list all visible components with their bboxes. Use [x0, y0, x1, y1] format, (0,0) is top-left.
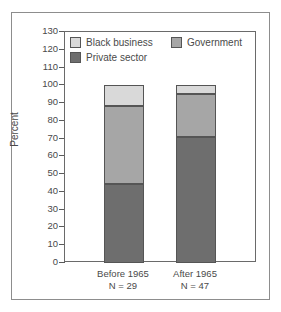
y-tick-label-wrap: 120	[26, 44, 58, 54]
y-tick-label: 50	[32, 168, 58, 178]
y-tick-label: 120	[32, 44, 58, 54]
x-axis-label-period: After 1965	[147, 268, 243, 280]
y-tick-label: 100	[32, 79, 58, 89]
bar-segment-black-business[interactable]	[176, 85, 216, 94]
bar-segment-black-business[interactable]	[104, 85, 144, 105]
y-tick-label: 80	[32, 115, 58, 125]
y-tick-label: 20	[32, 221, 58, 231]
x-axis-label-group: After 1965N = 47	[147, 268, 243, 292]
x-axis-label-sample-size: N = 47	[147, 280, 243, 292]
plot-area	[64, 31, 256, 262]
legend-swatch-icon	[70, 37, 81, 48]
y-tick-label-wrap: 130	[26, 26, 58, 36]
bar-after-1965[interactable]	[176, 32, 216, 263]
y-tick-label: 0	[32, 257, 58, 267]
y-tick-label: 110	[32, 62, 58, 72]
bar-segment-government[interactable]	[104, 106, 144, 184]
legend-swatch-icon	[70, 52, 81, 63]
y-tick-label-wrap: 50	[26, 168, 58, 178]
bar-segment-government[interactable]	[176, 94, 216, 137]
legend-label: Black business	[86, 37, 153, 48]
y-tick-label: 30	[32, 204, 58, 214]
y-tick-label-wrap: 110	[26, 62, 58, 72]
y-tick-label-wrap: 70	[26, 133, 58, 143]
y-tick-label-wrap: 100	[26, 79, 58, 89]
bar-before-1965[interactable]	[104, 32, 144, 263]
y-tick-label-wrap: 60	[26, 150, 58, 160]
y-tick-label-wrap: 80	[26, 115, 58, 125]
y-tick-label: 60	[32, 150, 58, 160]
legend-label: Private sector	[86, 52, 147, 63]
figure-container: Percent 1301201101009080706050403020100 …	[0, 0, 281, 312]
y-tick-mark	[59, 262, 65, 263]
bar-segment-private-sector[interactable]	[176, 137, 216, 263]
y-tick-label-wrap: 90	[26, 97, 58, 107]
y-tick-label-wrap: 30	[26, 204, 58, 214]
y-tick-label-wrap: 10	[26, 239, 58, 249]
y-tick-label: 70	[32, 133, 58, 143]
legend-label: Government	[187, 37, 242, 48]
y-tick-label-wrap: 40	[26, 186, 58, 196]
y-tick-label: 130	[32, 26, 58, 36]
y-tick-label: 10	[32, 239, 58, 249]
y-axis-label: Percent	[9, 100, 20, 160]
y-tick-label: 40	[32, 186, 58, 196]
y-tick-label-wrap: 20	[26, 221, 58, 231]
legend-swatch-icon	[171, 37, 182, 48]
y-tick-label-wrap: 0	[26, 257, 58, 267]
bar-segment-private-sector[interactable]	[104, 184, 144, 263]
y-tick-label: 90	[32, 97, 58, 107]
